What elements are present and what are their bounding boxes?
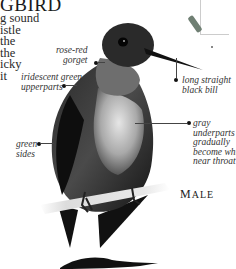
leader-dot	[187, 121, 191, 125]
flying-hummingbird	[60, 258, 158, 269]
tail-feather-left	[58, 205, 78, 248]
leader-line	[65, 85, 77, 86]
bird-head	[102, 23, 154, 67]
leader-line	[40, 143, 54, 144]
label-upperparts: iridescent green upperparts	[21, 73, 82, 92]
label-gorget: rose-red gorget	[56, 46, 87, 65]
leader-line	[176, 58, 177, 78]
sex-label-male: MALE	[180, 187, 214, 202]
label-sides: green sides	[16, 140, 37, 159]
bird-eye	[118, 38, 128, 47]
leader-dot	[174, 78, 178, 82]
label-bill: long straight black bill	[182, 76, 231, 95]
label-underparts: gray underparts gradually become white n…	[193, 119, 236, 167]
leader-line	[97, 62, 105, 63]
leader-line	[135, 123, 187, 124]
